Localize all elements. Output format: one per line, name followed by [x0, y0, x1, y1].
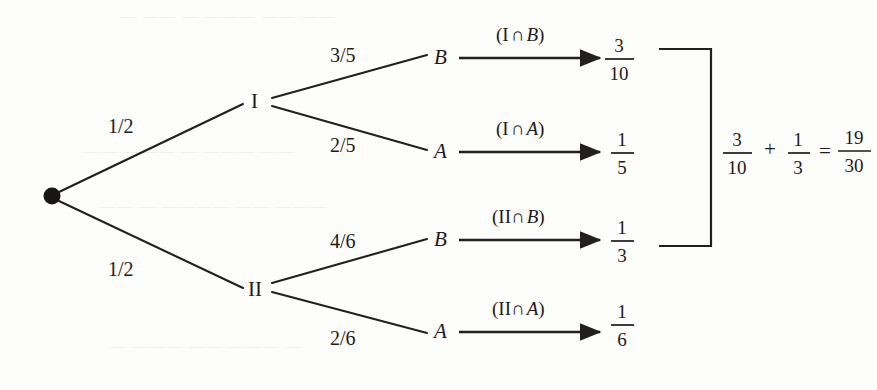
event-label-II-B: (II∩B) — [492, 206, 545, 228]
event-label-I-A: (I∩A) — [496, 118, 544, 140]
summary-equals-operator: = — [819, 139, 831, 163]
leaf-label-II-A: A — [432, 319, 447, 343]
summary-term1-denominator: 10 — [728, 157, 747, 178]
result-II-A-numerator: 1 — [617, 301, 627, 322]
probability-tree-svg: 1/2 1/2 I II 3/5 2/5 4/6 2/6 B A B A (I∩… — [0, 0, 877, 390]
summary-expression: 3 10 + 1 3 = 19 30 — [723, 127, 871, 178]
leaf-label-II-B: B — [434, 227, 447, 251]
leaf-label-I-A: A — [432, 139, 447, 163]
prob-I-to-A: 2/5 — [330, 134, 356, 156]
root-node — [44, 188, 61, 205]
summary-term1-numerator: 3 — [732, 129, 742, 150]
summary-term2-denominator: 3 — [793, 157, 803, 178]
event-label-I-B: (I∩B) — [496, 24, 544, 46]
tree-diagram-canvas: — —— — ——— —— —— —— ——— — ——— —— —— — ——… — [0, 0, 877, 390]
node-I: I — [251, 89, 258, 113]
summary-total-denominator: 30 — [845, 155, 864, 176]
result-I-A-denominator: 5 — [617, 157, 627, 178]
event-label-II-A: (II∩A) — [492, 298, 545, 320]
leaf-label-I-B: B — [434, 45, 447, 69]
result-I-A-numerator: 1 — [617, 129, 627, 150]
grouping-bracket — [659, 49, 711, 246]
prob-II-to-A: 2/6 — [330, 327, 356, 349]
result-II-B-numerator: 1 — [617, 217, 627, 238]
prob-root-to-I: 1/2 — [108, 115, 134, 137]
prob-root-to-II: 1/2 — [108, 258, 134, 280]
result-II-A-denominator: 6 — [617, 329, 627, 350]
result-I-B-denominator: 10 — [610, 63, 629, 84]
prob-I-to-B: 3/5 — [330, 44, 356, 66]
prob-II-to-B: 4/6 — [330, 230, 356, 252]
summary-term2-numerator: 1 — [793, 129, 803, 150]
edge-root-to-II — [59, 201, 243, 288]
result-I-B-numerator: 3 — [614, 35, 624, 56]
edge-root-to-I — [59, 104, 243, 192]
summary-plus-operator: + — [764, 137, 776, 161]
node-II: II — [248, 277, 262, 301]
summary-total-numerator: 19 — [845, 127, 864, 148]
result-II-B-denominator: 3 — [617, 245, 627, 266]
